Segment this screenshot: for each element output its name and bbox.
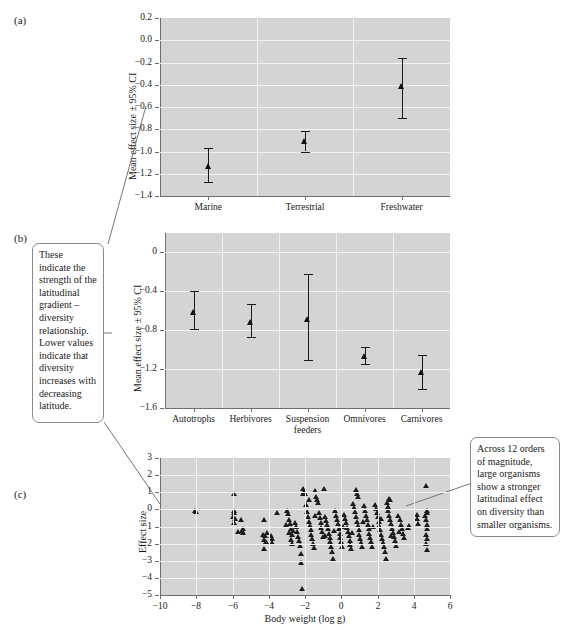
panel-c-y-ticklabel: −2: [134, 539, 152, 548]
panel-a-y-ticklabel: −0.8: [122, 124, 152, 133]
panel-c-vgridline: [414, 458, 415, 595]
panel-c-data-point: [424, 547, 430, 552]
panel-b-errorbar-cap-lower: [190, 329, 199, 330]
panel-a-data-marker: [205, 163, 211, 169]
panel-b-vgridline: [393, 233, 394, 408]
panel-c-data-point: [415, 521, 421, 526]
panel-b-errorbar-cap-upper: [418, 355, 427, 356]
panel-c-data-point: [285, 511, 291, 516]
panel-b-gridline: [165, 369, 450, 370]
panel-c-vgridline: [305, 458, 306, 595]
panel-a-gridline: [160, 107, 450, 108]
panel-c-data-point: [312, 513, 318, 518]
panel-c-y-ticklabel: 1: [134, 487, 152, 496]
panel-c-y-ticklabel: −5: [134, 590, 152, 599]
panel-b-errorbar-cap-lower: [304, 360, 313, 361]
panel-b-category-label: Herbivores: [222, 414, 279, 425]
panel-c-y-tick: [155, 492, 159, 493]
panel-c-y-tick: [155, 561, 159, 562]
panel-b-errorbar-cap-upper: [361, 347, 370, 348]
panel-c-data-point: [321, 486, 327, 491]
panel-a-errorbar-cap-lower: [398, 118, 407, 119]
callout-body-weight: Across 12 orders of magnitude, large org…: [470, 437, 560, 537]
panel-c-x-tick: [341, 595, 342, 599]
panel-c-x-tick: [160, 595, 161, 599]
panel-c-y-tick: [155, 527, 159, 528]
panel-c-y-tick: [155, 578, 159, 579]
panel-c-x-tick: [378, 595, 379, 599]
panel-a-errorbar-cap-lower: [204, 182, 213, 183]
panel-c-x-axis-label: Body weight (log g): [230, 613, 380, 624]
panel-c-y-tick: [155, 544, 159, 545]
panel-b-x-tick: [194, 408, 195, 412]
panel-a-data-marker: [398, 83, 404, 89]
panel-c-x-tick: [233, 595, 234, 599]
panel-c-y-tick: [155, 458, 159, 459]
panel-b-gridline: [165, 252, 450, 253]
panel-c-y-ticklabel: −3: [134, 556, 152, 565]
panel-a-gridline: [160, 129, 450, 130]
panel-c-data-point: [388, 533, 394, 538]
panel-a-y-tick: [155, 18, 159, 19]
panel-c-data-point: [331, 528, 337, 533]
panel-a-gridline: [160, 63, 450, 64]
panel-b-errorbar-cap-lower: [361, 364, 370, 365]
panel-c-data-point: [261, 517, 267, 522]
panel-a-gridline: [160, 174, 450, 175]
panel-a-vgridline: [257, 18, 258, 196]
panel-b-category-label: Autotrophs: [165, 414, 222, 425]
panel-a-y-tick: [155, 40, 159, 41]
panel-b-data-marker: [190, 309, 196, 315]
panel-b-errorbar-cap-upper: [247, 304, 256, 305]
panel-c-data-point: [261, 546, 267, 551]
panel-b-y-tick: [160, 369, 164, 370]
panel-a-gridline: [160, 85, 450, 86]
panel-a-errorbar-cap-upper: [398, 58, 407, 59]
panel-a-y-ticklabel: −0.4: [122, 80, 152, 89]
panel-c-x-ticklabel: 0: [327, 601, 355, 611]
panel-c-vgridline: [269, 458, 270, 595]
panel-c-x-tick: [305, 595, 306, 599]
panel-c-data-point: [396, 529, 402, 534]
panel-c-data-point: [378, 516, 384, 521]
panel-a-y-ticklabel: −1.4: [122, 191, 152, 200]
panel-a-category-label: Marine: [160, 202, 257, 213]
panel-a-x-tick: [402, 196, 403, 200]
panel-b-y-ticklabel: −1.2: [127, 364, 157, 373]
panel-b-y-tick: [160, 330, 164, 331]
panel-a-y-tick: [155, 196, 159, 197]
panel-b-y-tick: [160, 252, 164, 253]
panel-c-vgridline: [233, 458, 234, 595]
panel-c-x-tick: [196, 595, 197, 599]
panel-b-data-marker: [418, 369, 424, 375]
panel-c-vgridline: [378, 458, 379, 595]
panel-b-category-label: Carnivores: [393, 414, 450, 425]
panel-b-y-ticklabel: 0: [127, 247, 157, 256]
panel-b-errorbar-cap-upper: [304, 274, 313, 275]
panel-a-category-label: Terrestrial: [257, 202, 354, 213]
panel-b-data-marker: [304, 316, 310, 322]
panel-b-vgridline: [336, 233, 337, 408]
panel-c-data-point: [298, 551, 304, 556]
panel-c-data-point: [290, 528, 296, 533]
panel-c-data-point: [349, 530, 355, 535]
panel-c-y-tick: [155, 595, 159, 596]
panel-b-x-tick: [422, 408, 423, 412]
panel-c-y-tick: [155, 475, 159, 476]
panel-a-y-tick: [155, 63, 159, 64]
panel-a-y-tick: [155, 152, 159, 153]
panel-b-errorbar-cap-upper: [190, 291, 199, 292]
panel-a-x-tick: [208, 196, 209, 200]
panel-c-data-point: [322, 533, 328, 538]
panel-a-y-ticklabel: −0.2: [122, 58, 152, 67]
panel-a-y-ticklabel: 0.2: [122, 13, 152, 22]
panel-a-x-tick: [305, 196, 306, 200]
panel-c-vgridline: [341, 458, 342, 595]
panel-c-x-ticklabel: −2: [291, 601, 319, 611]
panel-a-vgridline: [353, 18, 354, 196]
panel-a-errorbar-cap-upper: [204, 148, 213, 149]
panel-b-data-marker: [361, 353, 367, 359]
panel-b-vgridline: [279, 233, 280, 408]
panel-c-x-ticklabel: −10: [146, 601, 174, 611]
panel-b-x-tick: [365, 408, 366, 412]
